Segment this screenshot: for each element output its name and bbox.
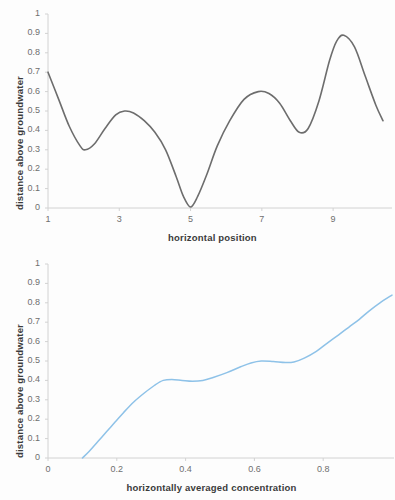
x-tick-label: 3 <box>104 214 134 224</box>
y-tick-label: 0.3 <box>6 394 40 404</box>
y-tick-label: 0.8 <box>6 47 40 57</box>
x-tick-label: 0.8 <box>308 464 338 474</box>
y-tick-label: 0.9 <box>6 27 40 37</box>
y-tick-label: 0.9 <box>6 277 40 287</box>
x-tick-label: 5 <box>176 214 206 224</box>
y-tick-label: 0.1 <box>6 433 40 443</box>
x-tick-label: 0.6 <box>239 464 269 474</box>
y-tick-label: 0.5 <box>6 105 40 115</box>
bottom-chart-plot <box>0 250 395 500</box>
y-tick-label: 0 <box>6 452 40 462</box>
y-tick-label: 0.6 <box>6 336 40 346</box>
y-tick-label: 0.8 <box>6 297 40 307</box>
y-tick-label: 1 <box>6 258 40 268</box>
x-tick-label: 1 <box>33 214 63 224</box>
x-tick-label: 0.4 <box>171 464 201 474</box>
x-tick-label: 0 <box>33 464 63 474</box>
y-tick-label: 0 <box>6 202 40 212</box>
data-series-line <box>82 295 392 458</box>
x-tick-label: 9 <box>318 214 348 224</box>
top-chart-x-axis-title: horizontal position <box>0 232 395 243</box>
chart-panel-top: horizontal position distance above groun… <box>0 0 395 250</box>
y-tick-label: 0.4 <box>6 124 40 134</box>
x-tick-label: 0.2 <box>102 464 132 474</box>
y-tick-label: 0.2 <box>6 413 40 423</box>
top-chart-plot <box>0 0 395 250</box>
x-tick-label: 7 <box>247 214 277 224</box>
y-tick-label: 0.5 <box>6 355 40 365</box>
y-tick-label: 0.3 <box>6 144 40 154</box>
y-tick-label: 0.4 <box>6 374 40 384</box>
y-tick-label: 0.2 <box>6 163 40 173</box>
y-tick-label: 0.1 <box>6 183 40 193</box>
y-tick-label: 1 <box>6 8 40 18</box>
data-series-line <box>48 35 383 207</box>
y-tick-label: 0.6 <box>6 86 40 96</box>
y-tick-label: 0.7 <box>6 316 40 326</box>
bottom-chart-x-axis-title: horizontally averaged concentration <box>0 482 395 493</box>
figure-page: horizontal position distance above groun… <box>0 0 395 500</box>
chart-panel-bottom: horizontally averaged concentration dist… <box>0 250 395 500</box>
y-tick-label: 0.7 <box>6 66 40 76</box>
